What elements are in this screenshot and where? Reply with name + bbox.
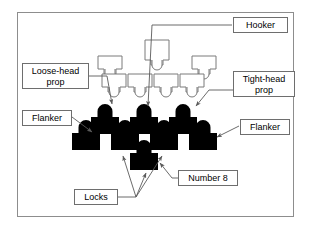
label-flanker-left[interactable]: Flanker [22,110,72,126]
hooker-figure [130,104,158,134]
label-locks[interactable]: Locks [74,189,118,205]
label-flanker-right[interactable]: Flanker [240,119,290,135]
tight-head-prop-figure [169,104,197,134]
label-hooker[interactable]: Hooker [233,17,288,33]
label-tight-head-prop[interactable]: Tight-head prop [233,71,295,97]
loose-head-prop-figure [91,104,119,134]
label-number-8[interactable]: Number 8 [178,170,238,186]
flanker-right-leader [217,126,239,137]
opponent-back-centre [145,40,169,70]
own-team-group [72,104,217,170]
number-8-leader [160,163,178,178]
locks-leader-centre [136,173,146,197]
opponent-front-4 [180,74,204,97]
opponent-front-3 [154,74,178,97]
scrum-diagram: Hooker Loose-head prop Tight-head prop F… [0,0,310,232]
opponent-front-1 [102,74,126,97]
tight-head-prop-leader [196,90,233,106]
opposing-team-group [98,40,216,97]
label-loose-head-prop[interactable]: Loose-head prop [22,63,89,89]
